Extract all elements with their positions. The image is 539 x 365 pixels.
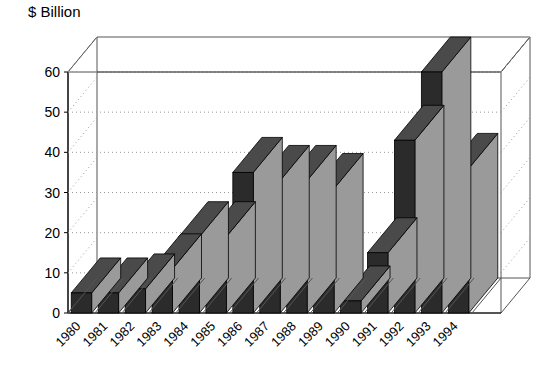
gridline-depth (501, 198, 530, 233)
bar-side-face (442, 37, 471, 313)
bar-front-face (71, 293, 91, 313)
x-axis-ticks: 1980198119821983198419851986198719881989… (53, 319, 461, 350)
x-tick-label: 1983 (133, 319, 164, 350)
x-tick-label: 1982 (106, 319, 137, 350)
y-tick-label: 30 (44, 185, 60, 201)
chart-container: 0102030405060 19801981198219831984198519… (0, 0, 539, 365)
y-tick-label: 0 (52, 305, 60, 321)
x-tick-label: 1986 (214, 319, 245, 350)
gridline-depth (501, 77, 530, 112)
bar-chart-3d: 0102030405060 19801981198219831984198519… (0, 0, 539, 365)
y-tick-label: 10 (44, 265, 60, 281)
y-tick-label: 40 (44, 144, 60, 160)
bar-side-face (415, 105, 444, 313)
x-tick-label: 1994 (430, 319, 461, 350)
x-tick-label: 1984 (160, 319, 191, 350)
x-tick-label: 1989 (295, 319, 326, 350)
chart-title: $ Billion (28, 3, 81, 20)
y-tick-label: 20 (44, 225, 60, 241)
gridline-depth (501, 117, 530, 152)
gridline-depth (501, 158, 530, 193)
x-tick-label: 1993 (403, 319, 434, 350)
y-tick-label: 60 (44, 64, 60, 80)
x-tick-label: 1988 (268, 319, 299, 350)
x-tick-label: 1992 (376, 319, 407, 350)
x-tick-label: 1990 (322, 319, 353, 350)
x-tick-label: 1981 (79, 319, 110, 350)
bar-front-face (341, 301, 361, 313)
gridline-depth (501, 238, 530, 273)
x-tick-label: 1980 (53, 319, 84, 350)
x-tick-label: 1991 (349, 319, 380, 350)
y-tick-label: 50 (44, 104, 60, 120)
x-tick-label: 1987 (241, 319, 272, 350)
y-axis-ticks: 0102030405060 (44, 64, 68, 321)
x-tick-label: 1985 (187, 319, 218, 350)
